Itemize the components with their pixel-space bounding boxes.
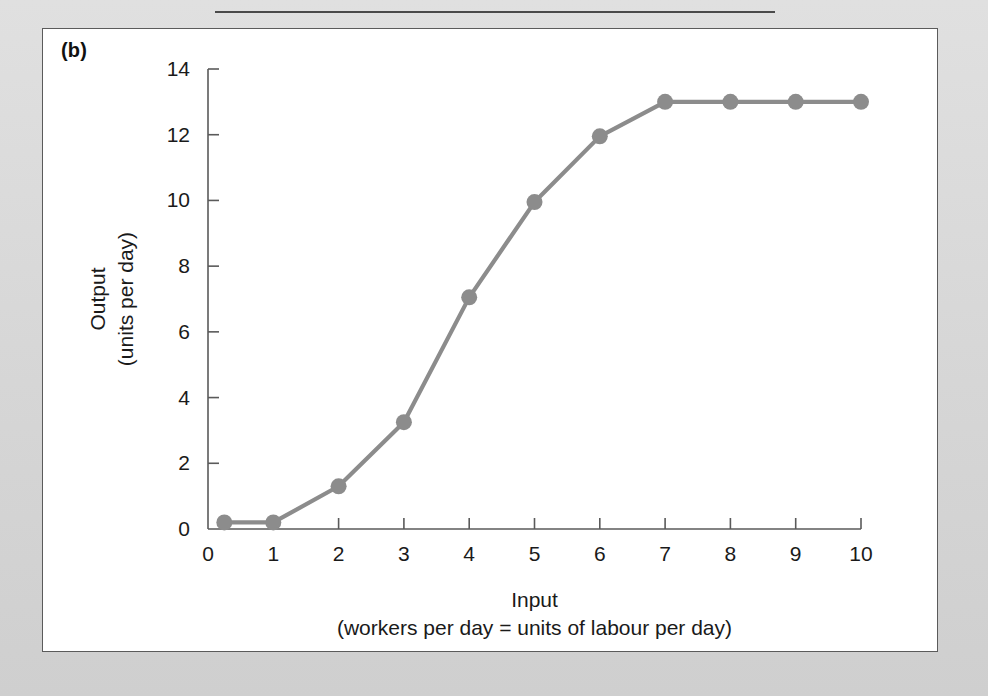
y-tick-label: 0	[178, 517, 190, 540]
data-point-marker	[216, 514, 232, 530]
x-tick-label: 4	[463, 542, 475, 565]
data-series-line	[224, 102, 861, 523]
data-point-marker	[592, 128, 608, 144]
data-point-marker	[527, 194, 543, 210]
data-point-marker	[265, 514, 281, 530]
data-point-marker	[722, 94, 738, 110]
x-tick-label: 10	[849, 542, 872, 565]
y-tick-label: 8	[178, 254, 190, 277]
x-tick-label: 9	[790, 542, 802, 565]
x-tick-label: 3	[398, 542, 410, 565]
data-point-marker	[853, 94, 869, 110]
header-rule	[215, 11, 775, 13]
data-point-marker	[657, 94, 673, 110]
x-tick-label: 8	[725, 542, 737, 565]
x-tick-label: 7	[659, 542, 671, 565]
y-tick-label: 10	[167, 188, 190, 211]
y-tick-label: 4	[178, 386, 190, 409]
y-tick-label: 2	[178, 451, 190, 474]
x-axis-title: Input	[511, 588, 558, 611]
y-tick-label: 6	[178, 320, 190, 343]
x-tick-label: 6	[594, 542, 606, 565]
figure-panel: (b) 02468101214012345678910Input(workers…	[42, 28, 938, 652]
plot-area: 02468101214012345678910Input(workers per…	[43, 29, 937, 651]
x-tick-label: 5	[529, 542, 541, 565]
y-axis-subtitle: (units per day)	[114, 232, 137, 366]
data-point-marker	[461, 289, 477, 305]
page-background: (b) 02468101214012345678910Input(workers…	[0, 0, 988, 696]
data-point-marker	[396, 414, 412, 430]
x-tick-label: 2	[333, 542, 345, 565]
data-point-marker	[788, 94, 804, 110]
x-tick-label: 0	[202, 542, 214, 565]
line-chart: 02468101214012345678910Input(workers per…	[43, 29, 939, 653]
x-tick-label: 1	[267, 542, 279, 565]
y-tick-label: 12	[167, 123, 190, 146]
y-tick-label: 14	[167, 57, 191, 80]
y-axis-title: Output	[86, 267, 109, 330]
x-axis-subtitle: (workers per day = units of labour per d…	[337, 616, 732, 639]
data-point-marker	[331, 478, 347, 494]
